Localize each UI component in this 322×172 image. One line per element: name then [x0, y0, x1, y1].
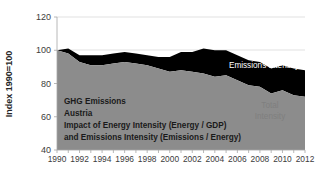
x-tick-label-2000: 2000 [160, 154, 179, 164]
ghg-emissions-area-chart: 120100806040 199019921994199619982000200… [0, 0, 322, 172]
y-tick-label-120: 120 [36, 12, 51, 22]
x-tick-label-2004: 2004 [205, 154, 224, 164]
x-tick-label-1992: 1992 [70, 154, 89, 164]
x-tick-label-2010: 2010 [273, 154, 292, 164]
x-tick-label-1996: 1996 [115, 154, 134, 164]
x-tick-label-1990: 1990 [48, 154, 67, 164]
x-tick-label-2008: 2008 [251, 154, 270, 164]
y-axis-title: Index 1990=100 [4, 51, 14, 117]
x-tick-label-2012: 2012 [296, 154, 315, 164]
series-label-energy-intensity: Energy-Intensity [240, 37, 300, 46]
x-tick-label-1994: 1994 [93, 154, 112, 164]
caption-line-2: Austria [64, 109, 93, 118]
caption-line-3: Impact of Energy Intensity (Energy / GDP… [64, 121, 227, 130]
caption-line-4: and Emissions Intensity (Emissions / Ene… [64, 133, 241, 142]
chart-container: 120100806040 199019921994199619982000200… [0, 0, 322, 172]
y-tick-label-60: 60 [41, 112, 51, 122]
series-label-total-intensity-line2: Intensity [255, 112, 286, 121]
y-tick-label-100: 100 [36, 45, 51, 55]
series-label-total-intensity-line1: Total [261, 101, 278, 110]
x-tick-label-2002: 2002 [183, 154, 202, 164]
series-label-emissions-intensity: Emissions Intensity [229, 61, 300, 70]
y-tick-label-80: 80 [41, 79, 51, 89]
x-tick-label-2006: 2006 [228, 154, 247, 164]
x-tick-label-1998: 1998 [138, 154, 157, 164]
caption-line-1: GHG Emissions [64, 97, 126, 106]
